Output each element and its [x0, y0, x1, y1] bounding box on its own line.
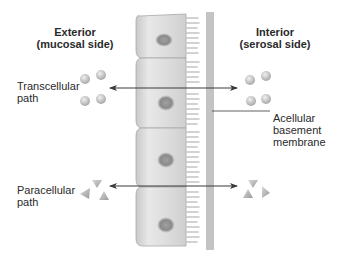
- solute-circle-icon: [246, 96, 256, 106]
- solute-circle-icon: [261, 94, 271, 104]
- cell-1: [136, 14, 186, 58]
- cell-2: [136, 58, 186, 128]
- solute-circle-icon: [261, 71, 271, 81]
- solute-circle-icon: [80, 74, 90, 84]
- exterior-label: Exterior (mucosal side): [30, 26, 120, 50]
- solute-triangle-icon: [262, 186, 270, 198]
- paracellular-path-label: Paracellular path: [17, 184, 75, 208]
- solute-triangle-icon: [248, 180, 258, 188]
- solute-circle-icon: [96, 70, 106, 80]
- cell-3: [136, 128, 186, 187]
- solute-triangle-icon: [99, 191, 109, 200]
- solute-circle-icon: [80, 96, 90, 106]
- epithelium-diagram: Exterior (mucosal side) Interior (serosa…: [0, 0, 341, 257]
- transcellular-path-label: Transcellular path: [17, 80, 80, 104]
- basement-membrane: [207, 12, 213, 250]
- solutes-triangle-exterior: [80, 180, 109, 200]
- solutes-triangle-interior: [243, 180, 270, 198]
- solutes-circle-exterior: [80, 70, 106, 106]
- solutes-circle-interior: [245, 71, 271, 106]
- cell-4: [136, 187, 186, 246]
- basement-membrane-label: Acellular basement membrane: [273, 112, 326, 148]
- solute-triangle-icon: [80, 188, 90, 199]
- nucleus-icon: [158, 153, 174, 167]
- nucleus-icon: [156, 34, 172, 46]
- solute-triangle-icon: [92, 180, 102, 188]
- nucleus-icon: [158, 96, 174, 110]
- nucleus-icon: [158, 218, 174, 232]
- solute-circle-icon: [96, 94, 106, 104]
- solute-circle-icon: [245, 75, 255, 85]
- interior-label: Interior (serosal side): [225, 26, 325, 50]
- solute-triangle-icon: [243, 189, 253, 198]
- microvilli: [186, 18, 199, 242]
